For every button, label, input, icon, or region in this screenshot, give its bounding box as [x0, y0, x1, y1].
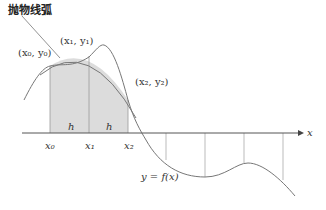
point-label-p0: (x₀, y₀): [18, 47, 52, 58]
parabolic-arc-title: 抛物线弧: [8, 3, 52, 17]
tick-label-x0: x₀: [45, 140, 55, 151]
tick-label-x1: x₁: [85, 140, 95, 151]
function-label: y = f(x): [140, 171, 179, 182]
axis-label-x: x: [307, 127, 313, 138]
interval-label-h2: h: [106, 121, 112, 132]
interval-label-h1: h: [68, 121, 74, 132]
tick-label-x2: x₂: [124, 140, 134, 151]
point-label-p2: (x₂, y₂): [135, 76, 169, 87]
point-label-p1: (x₁, y₁): [60, 35, 94, 46]
simpson-rule-diagram: x 抛物线弧 (x₀, y₀) (x₁, y₁) (x₂, y₂) h h x₀…: [0, 0, 326, 210]
x-axis-arrow-icon: [298, 130, 304, 136]
